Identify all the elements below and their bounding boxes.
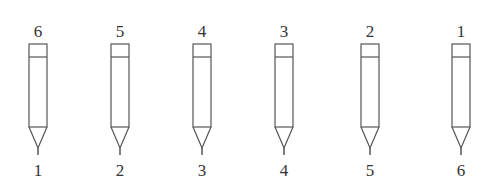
pencil-2: 5 2 [100, 0, 140, 189]
pencil-bottom-label: 2 [100, 162, 140, 179]
pencil-bottom-label: 6 [441, 162, 481, 179]
pencil-5: 2 5 [350, 0, 390, 189]
pencil-bottom-label: 1 [18, 162, 58, 179]
pencil-bottom-label: 3 [182, 162, 222, 179]
pencil-6: 1 6 [441, 0, 481, 189]
pencil-4: 3 4 [264, 0, 304, 189]
pencil-1: 6 1 [18, 0, 58, 189]
pencil-bottom-label: 5 [350, 162, 390, 179]
pencil-3: 4 3 [182, 0, 222, 189]
pencil-bottom-label: 4 [264, 162, 304, 179]
